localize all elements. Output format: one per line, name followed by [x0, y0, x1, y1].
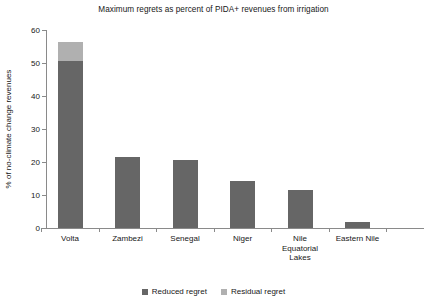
- bar-segment: [345, 222, 370, 228]
- y-axis-tick-label: 30: [31, 125, 40, 134]
- y-axis-tick-mark: [42, 129, 46, 130]
- legend-swatch-icon: [221, 289, 227, 295]
- legend-item[interactable]: Residual regret: [221, 287, 285, 296]
- x-axis-tick-mark: [329, 228, 330, 232]
- chart-title: Maximum regrets as percent of PIDA+ reve…: [0, 5, 427, 14]
- x-axis-category-label: Volta: [41, 234, 99, 244]
- y-axis-tick-label: 20: [31, 158, 40, 167]
- y-axis-tick-label: 0: [36, 224, 40, 233]
- bar-segment: [173, 160, 198, 228]
- y-axis-tick-mark: [42, 195, 46, 196]
- y-axis-line: [46, 30, 47, 228]
- legend-swatch-icon: [142, 289, 148, 295]
- y-axis-tick-mark: [42, 63, 46, 64]
- x-axis-tick-mark: [156, 228, 157, 232]
- y-axis-tick-mark: [42, 228, 46, 229]
- bar-segment: [115, 157, 140, 228]
- bar: [58, 42, 83, 228]
- x-axis-tick-mark: [41, 228, 42, 232]
- y-axis-tick-mark: [42, 30, 46, 31]
- legend-label: Residual regret: [231, 287, 285, 296]
- x-axis-category-label-line: Senegal: [156, 234, 214, 244]
- x-axis-category-label-line: Eastern Nile: [329, 234, 387, 244]
- x-axis-tick-mark: [271, 228, 272, 232]
- x-axis-category-label: Niger: [214, 234, 272, 244]
- legend-label: Reduced regret: [152, 287, 207, 296]
- x-axis-tick-mark: [386, 228, 387, 232]
- y-axis-tick-label: 50: [31, 59, 40, 68]
- bar: [230, 181, 255, 228]
- x-axis-category-label-line: Zambezi: [99, 234, 157, 244]
- x-axis-category-label-line: Equatorial: [271, 244, 329, 254]
- y-axis-tick-mark: [42, 96, 46, 97]
- legend-item[interactable]: Reduced regret: [142, 287, 207, 296]
- chart-container: Maximum regrets as percent of PIDA+ reve…: [0, 0, 427, 308]
- y-axis-tick-mark: [42, 162, 46, 163]
- bar: [345, 222, 370, 228]
- x-axis-category-label: Senegal: [156, 234, 214, 244]
- x-axis-category-label: Zambezi: [99, 234, 157, 244]
- y-axis-tick-label: 10: [31, 191, 40, 200]
- x-axis-line: [46, 228, 424, 229]
- y-axis-title: % of no-climate change revenues: [4, 30, 16, 228]
- bar-segment: [58, 42, 83, 61]
- x-axis-tick-mark: [99, 228, 100, 232]
- bar-segment: [230, 181, 255, 228]
- x-axis-tick-mark: [214, 228, 215, 232]
- x-axis-category-label: NileEquatorialLakes: [271, 234, 329, 263]
- plot-area: 0102030405060: [46, 30, 424, 228]
- bar-segment: [58, 61, 83, 228]
- y-axis-tick-label: 60: [31, 26, 40, 35]
- bar: [288, 190, 313, 228]
- x-axis-category-label-line: Volta: [41, 234, 99, 244]
- bar: [115, 157, 140, 228]
- y-axis-tick-label: 40: [31, 92, 40, 101]
- bar: [173, 160, 198, 228]
- chart-legend: Reduced regretResidual regret: [0, 287, 427, 296]
- x-axis-category-label-line: Niger: [214, 234, 272, 244]
- bar-segment: [288, 190, 313, 228]
- x-axis-category-label-line: Nile: [271, 234, 329, 244]
- x-axis-category-label: Eastern Nile: [329, 234, 387, 244]
- x-axis-category-label-line: Lakes: [271, 253, 329, 263]
